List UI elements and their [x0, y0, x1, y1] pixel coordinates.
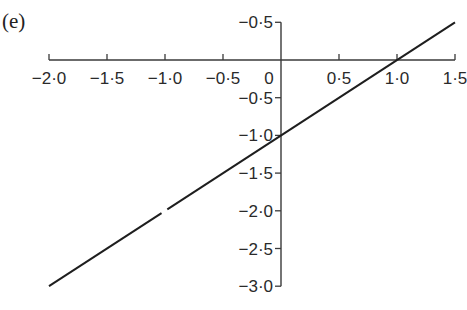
y-tick-label: −3·0	[239, 277, 274, 296]
x-tick-label: 0·5	[327, 69, 352, 88]
y-tick-label: −1·0	[239, 126, 274, 145]
x-tick-label: −1·5	[90, 69, 125, 88]
panel-label: (e)	[2, 9, 25, 33]
y-tick-label: −2·0	[239, 202, 274, 221]
line-chart: (e) −2·0−1·5−1·0−0·500·51·01·5 −0·5−0·5−…	[0, 0, 467, 310]
x-tick-label: −0·5	[206, 69, 241, 88]
y-axis-ticks: −0·5−0·5−1·0−1·5−2·0−2·5−3·0	[239, 13, 282, 296]
x-tick-label: −2·0	[32, 69, 67, 88]
x-tick-label: 1·0	[385, 69, 410, 88]
x-tick-label: 0	[264, 69, 273, 88]
series-line	[49, 213, 162, 286]
x-axis-ticks: −2·0−1·5−1·0−0·500·51·01·5	[32, 54, 467, 88]
x-tick-label: −1·0	[148, 69, 183, 88]
x-tick-label: 1·5	[443, 69, 467, 88]
y-tick-label: −1·5	[239, 164, 274, 183]
series-line	[167, 22, 455, 209]
y-tick-label: −2·5	[239, 240, 274, 259]
y-tick-label: −0·5	[239, 89, 274, 108]
y-tick-label: −0·5	[239, 13, 274, 32]
